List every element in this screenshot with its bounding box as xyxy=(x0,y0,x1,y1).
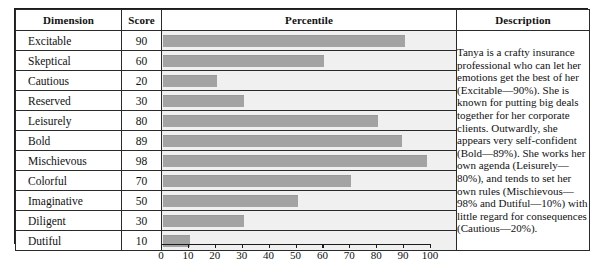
bar-track xyxy=(162,191,456,210)
percentile-bar xyxy=(163,195,298,207)
bar-track xyxy=(162,211,456,230)
column-header-score: Score xyxy=(122,10,162,31)
axis-tick-label: 40 xyxy=(263,249,274,261)
percentile-bar xyxy=(163,55,324,67)
axis-tick-label: 30 xyxy=(236,249,247,261)
dimension-label: Imaginative xyxy=(16,191,122,211)
axis-tick-label: 90 xyxy=(398,249,409,261)
bar-track xyxy=(162,31,456,50)
percentile-cell xyxy=(162,71,457,91)
percentile-cell xyxy=(162,31,457,51)
dimension-label: Skeptical xyxy=(16,51,122,71)
score-value: 60 xyxy=(122,51,162,71)
percentile-cell xyxy=(162,211,457,231)
column-header-dimension: Dimension xyxy=(16,10,122,31)
dimension-label: Excitable xyxy=(16,31,122,51)
score-value: 98 xyxy=(122,151,162,171)
axis-tick xyxy=(269,244,270,248)
axis-tick-label: 20 xyxy=(209,249,220,261)
percentile-bar xyxy=(163,175,351,187)
bar-track xyxy=(162,151,456,170)
profile-table-container: Dimension Score Percentile Description E… xyxy=(14,8,588,244)
axis-tick xyxy=(161,244,162,248)
percentile-cell xyxy=(162,151,457,171)
percentile-cell xyxy=(162,131,457,151)
dimension-label: Mischievous xyxy=(16,151,122,171)
score-value: 90 xyxy=(122,31,162,51)
personality-profile-table: Dimension Score Percentile Description E… xyxy=(15,9,590,251)
percentile-cell xyxy=(162,191,457,211)
axis-tick xyxy=(403,244,404,248)
percentile-bar xyxy=(163,115,378,127)
axis-tick xyxy=(430,244,431,248)
percentile-cell xyxy=(162,51,457,71)
percentile-cell xyxy=(162,111,457,131)
axis-tick xyxy=(215,244,216,248)
score-value: 20 xyxy=(122,71,162,91)
table-header-row: Dimension Score Percentile Description xyxy=(16,10,590,31)
bar-track xyxy=(162,171,456,190)
score-value: 89 xyxy=(122,131,162,151)
dimension-label: Reserved xyxy=(16,91,122,111)
axis-tick xyxy=(349,244,350,248)
axis-tick xyxy=(188,244,189,248)
dimension-label: Diligent xyxy=(16,211,122,231)
percentile-bar xyxy=(163,35,405,47)
dimension-label: Leisurely xyxy=(16,111,122,131)
score-value: 80 xyxy=(122,111,162,131)
table-row: Excitable90Tanya is a crafty insurance p… xyxy=(16,31,590,51)
axis-tick-label: 70 xyxy=(344,249,355,261)
column-header-percentile: Percentile xyxy=(162,10,457,31)
percentile-axis: 0102030405060708090100 xyxy=(14,244,588,266)
bar-track xyxy=(162,51,456,70)
percentile-bar xyxy=(163,75,217,87)
percentile-cell xyxy=(162,171,457,191)
axis-tick xyxy=(242,244,243,248)
score-value: 70 xyxy=(122,171,162,191)
description-paragraph: Tanya is a crafty insurance professional… xyxy=(457,46,589,235)
percentile-bar xyxy=(163,215,244,227)
bar-track xyxy=(162,111,456,130)
axis-tick-label: 50 xyxy=(290,249,301,261)
dimension-label: Colorful xyxy=(16,171,122,191)
bar-track xyxy=(162,71,456,90)
score-value: 30 xyxy=(122,91,162,111)
percentile-cell xyxy=(162,91,457,111)
axis-tick xyxy=(322,244,323,248)
score-value: 30 xyxy=(122,211,162,231)
column-header-description: Description xyxy=(457,10,590,31)
axis-tick-label: 10 xyxy=(182,249,193,261)
dimension-label: Bold xyxy=(16,131,122,151)
axis-tick-label: 100 xyxy=(422,249,439,261)
bar-track xyxy=(162,131,456,150)
axis-tick-label: 60 xyxy=(317,249,328,261)
score-value: 50 xyxy=(122,191,162,211)
percentile-bar xyxy=(163,135,402,147)
axis-tick xyxy=(296,244,297,248)
bar-track xyxy=(162,91,456,110)
percentile-bar xyxy=(163,155,427,167)
axis-tick xyxy=(376,244,377,248)
table-header: Dimension Score Percentile Description xyxy=(16,10,590,31)
axis-tick-label: 80 xyxy=(371,249,382,261)
axis-tick-label: 0 xyxy=(158,249,164,261)
percentile-bar xyxy=(163,95,244,107)
dimension-label: Cautious xyxy=(16,71,122,91)
description-text: Tanya is a crafty insurance professional… xyxy=(457,31,590,251)
table-body: Excitable90Tanya is a crafty insurance p… xyxy=(16,31,590,251)
